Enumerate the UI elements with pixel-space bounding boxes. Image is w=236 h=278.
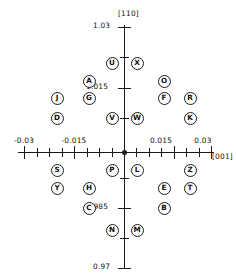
y-axis-major-tick bbox=[118, 208, 131, 209]
y-axis-major-tick bbox=[118, 88, 131, 89]
data-point-label: O bbox=[161, 77, 167, 84]
data-point-d[interactable]: D bbox=[51, 112, 64, 125]
y-axis-minor-tick bbox=[120, 178, 129, 179]
x-axis-minor-tick bbox=[112, 148, 113, 157]
y-axis-minor-tick bbox=[120, 238, 129, 239]
y-axis-tick-label: 1.03 bbox=[93, 22, 110, 30]
data-point-label: D bbox=[54, 114, 60, 121]
data-point-j[interactable]: J bbox=[51, 92, 64, 105]
data-point-label: P bbox=[109, 166, 114, 173]
x-axis-line bbox=[18, 152, 214, 153]
x-axis-minor-tick bbox=[99, 148, 100, 157]
x-axis-tick-label: 0.03 bbox=[189, 137, 217, 145]
x-axis-minor-tick bbox=[62, 148, 63, 157]
data-point-r[interactable]: R bbox=[184, 92, 197, 105]
data-point-label: Z bbox=[187, 166, 192, 173]
data-point-label: Y bbox=[54, 184, 59, 191]
data-point-label: V bbox=[109, 114, 115, 121]
data-point-label: J bbox=[56, 94, 59, 101]
x-axis-tick-label: -0.015 bbox=[60, 137, 88, 145]
data-point-g[interactable]: G bbox=[83, 92, 96, 105]
y-axis-tick-label: 0.97 bbox=[93, 263, 110, 271]
x-axis-minor-tick bbox=[136, 148, 137, 157]
x-axis-minor-tick bbox=[49, 148, 50, 157]
data-point-label: L bbox=[135, 166, 140, 173]
data-point-y[interactable]: Y bbox=[51, 182, 64, 195]
data-point-label: X bbox=[134, 59, 140, 66]
data-point-label: A bbox=[86, 77, 92, 84]
data-point-o[interactable]: O bbox=[158, 75, 171, 88]
x-axis-minor-tick bbox=[186, 148, 187, 157]
data-point-f[interactable]: F bbox=[158, 92, 171, 105]
data-point-t[interactable]: T bbox=[184, 182, 197, 195]
x-axis-minor-tick bbox=[37, 148, 38, 157]
reciprocal-space-map-plot: 1.031.0150.9850.97 -0.03-0.0150.0150.03 … bbox=[0, 0, 236, 278]
y-axis-minor-tick bbox=[120, 118, 129, 119]
data-point-label: T bbox=[188, 184, 193, 191]
data-point-label: G bbox=[86, 94, 92, 101]
data-point-label: N bbox=[109, 226, 115, 233]
x-axis-minor-tick bbox=[199, 148, 200, 157]
data-point-p[interactable]: P bbox=[106, 164, 119, 177]
data-point-label: H bbox=[86, 184, 92, 191]
x-axis-major-tick bbox=[24, 146, 25, 159]
data-point-label: F bbox=[162, 94, 167, 101]
data-point-label: C bbox=[86, 204, 91, 211]
data-point-v[interactable]: V bbox=[106, 112, 119, 125]
data-point-m[interactable]: M bbox=[131, 224, 144, 237]
x-axis-major-tick bbox=[124, 146, 125, 159]
data-point-label: W bbox=[133, 114, 141, 121]
data-point-label: K bbox=[187, 114, 193, 121]
data-point-w[interactable]: W bbox=[131, 112, 144, 125]
x-axis-minor-tick bbox=[87, 148, 88, 157]
data-point-label: B bbox=[161, 204, 166, 211]
data-point-label: E bbox=[162, 184, 167, 191]
data-point-label: S bbox=[54, 166, 59, 173]
x-axis-tick-label: -0.03 bbox=[10, 137, 38, 145]
x-axis-minor-tick bbox=[161, 148, 162, 157]
y-axis-minor-tick bbox=[120, 57, 129, 58]
data-point-k[interactable]: K bbox=[184, 112, 197, 125]
x-axis-major-tick bbox=[174, 146, 175, 159]
x-axis-tick-label: 0.015 bbox=[147, 137, 175, 145]
data-point-s[interactable]: S bbox=[51, 164, 64, 177]
data-point-z[interactable]: Z bbox=[184, 164, 197, 177]
data-point-u[interactable]: U bbox=[106, 57, 119, 70]
data-point-label: U bbox=[109, 59, 115, 66]
data-point-e[interactable]: E bbox=[158, 182, 171, 195]
data-point-a[interactable]: A bbox=[83, 75, 96, 88]
data-point-n[interactable]: N bbox=[106, 224, 119, 237]
data-point-c[interactable]: C bbox=[83, 202, 96, 215]
data-point-x[interactable]: X bbox=[131, 57, 144, 70]
x-axis-major-tick bbox=[74, 146, 75, 159]
x-axis-minor-tick bbox=[149, 148, 150, 157]
data-point-label: M bbox=[133, 226, 140, 233]
y-axis-major-tick bbox=[118, 268, 131, 269]
data-point-label: R bbox=[187, 94, 193, 101]
data-point-l[interactable]: L bbox=[131, 164, 144, 177]
data-point-b[interactable]: B bbox=[158, 202, 171, 215]
y-axis-title: [110] bbox=[118, 10, 139, 18]
x-axis-title: [001] bbox=[212, 153, 233, 161]
y-axis-major-tick bbox=[118, 27, 131, 28]
data-point-h[interactable]: H bbox=[83, 182, 96, 195]
